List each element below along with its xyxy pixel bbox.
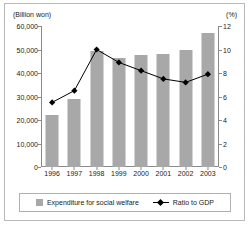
right-tick-mark bbox=[219, 97, 222, 98]
plot-area: 010,00020,00030,00040,00050,00060,000 02… bbox=[41, 26, 219, 167]
marker-1997 bbox=[71, 88, 77, 94]
chart-legend: Expenditure for social welfare Ratio to … bbox=[19, 193, 231, 212]
right-tick-mark bbox=[219, 144, 222, 145]
right-tick-mark bbox=[219, 26, 222, 27]
x-tick-label-1998: 1998 bbox=[89, 170, 105, 177]
left-tick-label: 60,000 bbox=[17, 23, 38, 30]
left-tick-label: 40,000 bbox=[17, 70, 38, 77]
x-tick-label-2003: 2003 bbox=[200, 170, 216, 177]
marker-1998 bbox=[94, 46, 100, 52]
left-tick-label: 50,000 bbox=[17, 46, 38, 53]
right-tick-mark bbox=[219, 120, 222, 121]
x-tick-label-1996: 1996 bbox=[44, 170, 60, 177]
x-axis-labels: 19961997199819992000200120022003 bbox=[41, 170, 219, 182]
line-series bbox=[41, 26, 219, 167]
legend-item-ratio: Ratio to GDP bbox=[153, 199, 214, 206]
x-tick-label-2002: 2002 bbox=[178, 170, 194, 177]
marker-2000 bbox=[138, 68, 144, 74]
right-tick-mark bbox=[219, 167, 222, 168]
right-tick-label: 6 bbox=[223, 93, 227, 100]
marker-2001 bbox=[160, 76, 166, 82]
left-tick-label: 30,000 bbox=[17, 93, 38, 100]
legend-label-expenditure: Expenditure for social welfare bbox=[47, 199, 139, 206]
right-tick-mark bbox=[219, 73, 222, 74]
right-tick-label: 4 bbox=[223, 117, 227, 124]
right-tick-label: 2 bbox=[223, 140, 227, 147]
right-tick-label: 12 bbox=[223, 23, 231, 30]
marker-2003 bbox=[205, 71, 211, 77]
x-tick-label-2001: 2001 bbox=[156, 170, 172, 177]
marker-2002 bbox=[183, 79, 189, 85]
left-axis-unit-label: (Billion won) bbox=[13, 11, 51, 18]
right-tick-label: 8 bbox=[223, 70, 227, 77]
right-tick-label: 0 bbox=[223, 164, 227, 171]
left-tick-mark bbox=[38, 167, 41, 168]
left-tick-label: 10,000 bbox=[17, 140, 38, 147]
legend-label-ratio: Ratio to GDP bbox=[173, 199, 214, 206]
legend-diamond-icon bbox=[157, 199, 164, 206]
ratio-line-path bbox=[52, 50, 208, 103]
right-tick-mark bbox=[219, 50, 222, 51]
legend-square-icon bbox=[36, 199, 43, 206]
legend-line-diamond-icon bbox=[153, 199, 169, 206]
chart-figure: (Billion won) (%) 010,00020,00030,00040,… bbox=[4, 3, 245, 221]
left-tick-label: 20,000 bbox=[17, 117, 38, 124]
legend-item-expenditure: Expenditure for social welfare bbox=[36, 199, 139, 206]
x-tick-label-2000: 2000 bbox=[133, 170, 149, 177]
x-tick-label-1997: 1997 bbox=[67, 170, 83, 177]
right-axis-unit-label: (%) bbox=[226, 11, 237, 18]
right-tick-label: 10 bbox=[223, 46, 231, 53]
x-tick-label-1999: 1999 bbox=[111, 170, 127, 177]
marker-1996 bbox=[49, 99, 55, 105]
marker-1999 bbox=[116, 59, 122, 65]
